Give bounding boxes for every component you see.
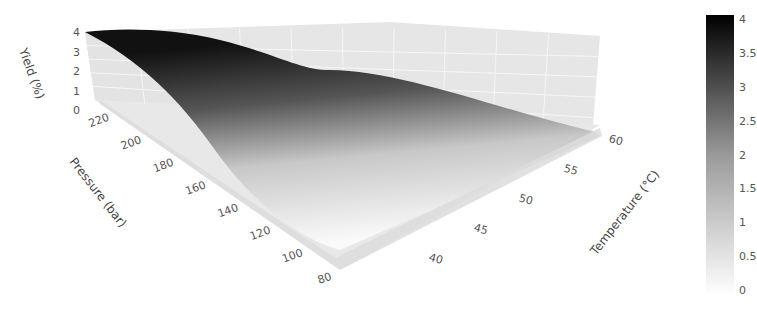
colorbar-tick-label: 1 <box>739 216 746 229</box>
z-axis-title: Yield (%) <box>16 45 48 101</box>
z-tick-label: 1 <box>73 85 80 98</box>
colorbar-tick-label: 4 <box>739 13 746 26</box>
x-tick-label: 40 <box>427 251 444 267</box>
x-tick-label: 60 <box>607 132 624 148</box>
z-tick-label: 0 <box>73 104 80 117</box>
colorbar-tick-label: 3.5 <box>739 47 757 60</box>
z-tick-label: 3 <box>73 46 80 59</box>
z-tick-label: 4 <box>73 26 80 39</box>
colorbar-tick-label: 2 <box>739 149 746 162</box>
y-tick-label: 120 <box>248 224 272 243</box>
x-tick-label: 55 <box>562 162 579 178</box>
colorbar-tick-label: 0 <box>739 284 746 297</box>
y-tick-label: 100 <box>280 246 304 265</box>
colorbar-tick-label: 1.5 <box>739 182 757 195</box>
y-tick-label: 220 <box>87 111 111 130</box>
y-tick-label: 180 <box>151 156 175 175</box>
colorbar-tick-label: 0.5 <box>739 250 757 263</box>
z-tick-label: 2 <box>73 65 80 78</box>
colorbar-tick-label: 3 <box>739 81 746 94</box>
colorbar <box>706 15 734 295</box>
y-tick-label: 200 <box>119 133 143 152</box>
x-tick-label: 50 <box>517 192 534 208</box>
colorbar-tick-label: 2.5 <box>739 115 757 128</box>
y-axis-title: Pressure (bar) <box>67 155 130 230</box>
y-tick-label: 140 <box>216 201 240 220</box>
x-tick-label: 45 <box>472 221 489 237</box>
y-tick-label: 80 <box>316 270 334 287</box>
y-tick-label: 160 <box>184 178 208 197</box>
surface-chart: 01234 80100120140160180200220 4045505560… <box>0 0 757 312</box>
x-axis-title: Temperature (°C) <box>587 167 662 258</box>
